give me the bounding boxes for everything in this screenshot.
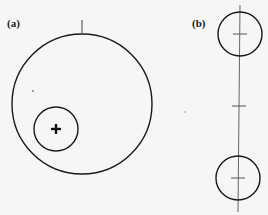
panel-b bbox=[216, 5, 262, 212]
diagram-canvas bbox=[0, 0, 268, 215]
large-circle bbox=[12, 34, 152, 174]
dot-mark bbox=[32, 90, 34, 92]
panel-a bbox=[12, 20, 186, 174]
plus-marker-icon bbox=[51, 124, 61, 134]
speck-mark bbox=[184, 111, 185, 112]
vertical-axis-line bbox=[238, 5, 240, 212]
